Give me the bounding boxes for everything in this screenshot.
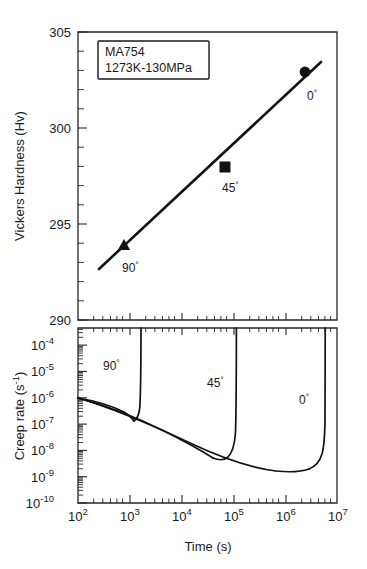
legend-box: MA754 1273K-130MPa xyxy=(98,41,209,79)
figure-container: 305 300 295 290 Vickers Hardness (Hv) 0°… xyxy=(0,0,367,569)
data-marker-45deg xyxy=(220,162,231,173)
figure-background xyxy=(0,0,367,569)
top-panel-ytick-295: 295 xyxy=(49,217,71,232)
bottom-panel-y-axis-title: Creep rate (s-1) xyxy=(10,372,27,461)
legend-conditions: 1273K-130MPa xyxy=(105,61,192,75)
data-marker-0deg xyxy=(300,67,311,78)
bottom-panel-x-axis-title: Time (s) xyxy=(184,539,231,554)
top-panel-y-axis-title: Vickers Hardness (Hv) xyxy=(12,111,27,241)
top-panel-ytick-305: 305 xyxy=(49,25,71,40)
figure-svg: 305 300 295 290 Vickers Hardness (Hv) 0°… xyxy=(0,0,367,569)
legend-material: MA754 xyxy=(105,45,145,59)
top-panel-ytick-290: 290 xyxy=(49,313,71,328)
top-panel-ytick-300: 300 xyxy=(49,121,71,136)
